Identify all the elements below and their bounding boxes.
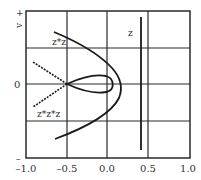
label-zz: z*z <box>52 37 66 47</box>
y-axis-plus: + <box>16 8 24 18</box>
x-tick-0.0: 0.0 <box>99 163 115 174</box>
chart-svg: z z*z z*z*z + v 0 – –1.0 –0.5 0.0 0.5 1.… <box>0 0 201 180</box>
y-axis-zero: 0 <box>14 79 20 90</box>
x-tick-1.0: 1.0 <box>180 163 196 174</box>
x-tick-0.5: 0.5 <box>140 163 156 174</box>
y-axis-label: v <box>14 22 24 29</box>
x-tick-neg-0.5: –0.5 <box>57 163 78 174</box>
series-zzz-branch-lower <box>33 84 67 107</box>
chart-container: z z*z z*z*z + v 0 – –1.0 –0.5 0.0 0.5 1.… <box>0 0 201 180</box>
label-zzz: z*z*z <box>37 109 60 119</box>
series-zzz-branch-upper <box>33 62 67 84</box>
label-z: z <box>128 28 133 38</box>
x-tick-neg-1.0: –1.0 <box>16 163 37 174</box>
